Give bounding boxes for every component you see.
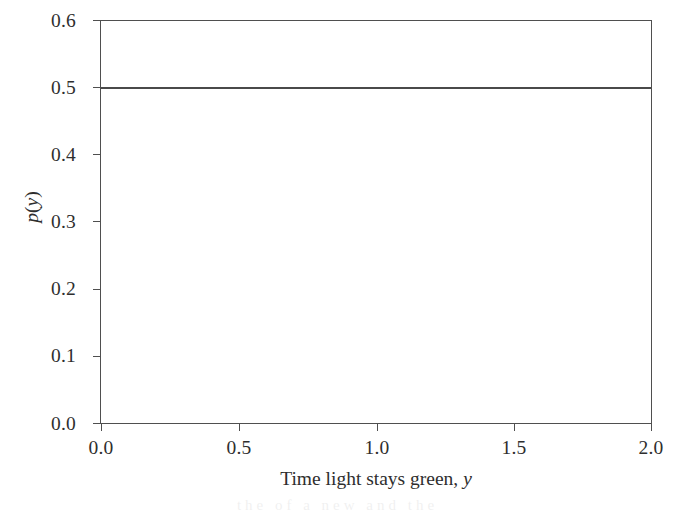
x-axis-label: Time light stays green, y bbox=[100, 468, 652, 490]
y-tick-label: 0.5 bbox=[30, 78, 76, 98]
y-tick-label: 0.6 bbox=[30, 11, 76, 31]
y-axis-tick bbox=[93, 87, 100, 88]
x-tick-label: 1.5 bbox=[479, 438, 549, 458]
y-axis-label-function: p bbox=[21, 213, 42, 223]
y-tick-label: 0.0 bbox=[30, 414, 76, 434]
y-tick-label: 0.2 bbox=[30, 279, 76, 299]
figure-root: 0.6 0.5 0.4 0.3 0.2 0.1 0.0 0.0 0.5 1.0 … bbox=[0, 0, 675, 516]
y-axis-tick bbox=[93, 221, 100, 222]
data-series-layer bbox=[101, 21, 651, 423]
x-axis-tick bbox=[651, 424, 652, 431]
x-tick-label: 0.0 bbox=[66, 438, 136, 458]
y-axis-tick bbox=[93, 356, 100, 357]
x-tick-label: 0.5 bbox=[204, 438, 274, 458]
scan-bleed-artifact: the of a new and the bbox=[0, 497, 675, 516]
x-axis-tick bbox=[239, 424, 240, 431]
y-tick-label: 0.1 bbox=[30, 346, 76, 366]
y-axis-tick bbox=[93, 289, 100, 290]
y-axis-tick bbox=[93, 154, 100, 155]
y-tick-label: 0.4 bbox=[30, 145, 76, 165]
x-axis-tick bbox=[514, 424, 515, 431]
x-axis-label-text: Time light stays green, bbox=[280, 468, 458, 489]
x-tick-label: 1.0 bbox=[342, 438, 412, 458]
plot-area bbox=[100, 20, 652, 424]
y-axis-label-variable: y bbox=[21, 198, 42, 207]
x-axis-label-variable: y bbox=[463, 468, 472, 489]
y-axis-tick bbox=[93, 423, 100, 424]
x-tick-label: 2.0 bbox=[616, 438, 675, 458]
y-axis-tick bbox=[93, 20, 100, 21]
y-axis-label: p(y) bbox=[21, 167, 43, 247]
y-axis-label-close-paren: ) bbox=[21, 191, 42, 198]
y-axis-label-open-paren: ( bbox=[21, 206, 42, 213]
x-axis-tick bbox=[101, 424, 102, 431]
x-axis-tick bbox=[377, 424, 378, 431]
